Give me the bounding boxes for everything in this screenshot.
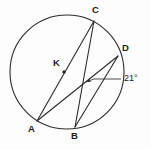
circle-outline	[10, 15, 124, 129]
point-label-B: B	[71, 131, 78, 141]
point-label-C: C	[92, 5, 99, 15]
point-label-A: A	[28, 124, 35, 134]
point-label-D: D	[122, 43, 129, 53]
angle-measure-label: 21°	[124, 74, 138, 83]
center-label-K: K	[53, 58, 60, 68]
geometry-figure: C D A B K 21°	[0, 0, 151, 150]
center-point-marker	[62, 70, 65, 73]
